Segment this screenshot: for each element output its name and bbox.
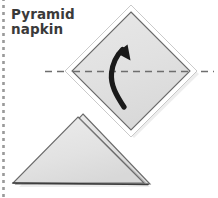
- napkin-diagram-svg: [0, 0, 218, 198]
- figure-canvas: Pyramid napkin: [0, 0, 218, 198]
